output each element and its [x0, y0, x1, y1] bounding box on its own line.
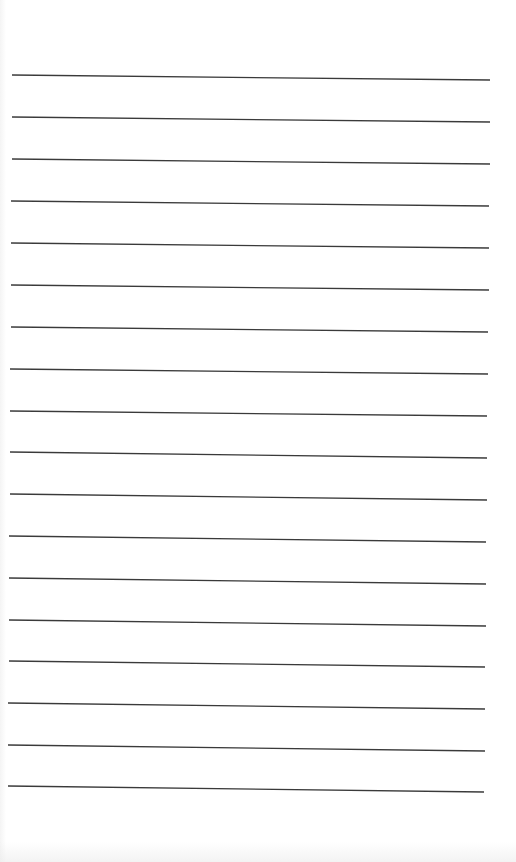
ruled-line-1 [12, 75, 490, 80]
ruled-line-16 [8, 703, 485, 709]
ruled-line-12 [9, 536, 486, 542]
ruled-line-17 [8, 745, 485, 751]
page-bottom-edge-shadow [0, 842, 516, 862]
lined-paper-page [0, 0, 516, 862]
ruled-line-5 [11, 243, 489, 248]
ruled-line-13 [9, 578, 486, 584]
ruled-lines [0, 0, 516, 862]
ruled-line-4 [11, 201, 489, 206]
ruled-line-9 [10, 411, 487, 416]
ruled-line-18 [8, 786, 484, 792]
ruled-line-8 [10, 369, 488, 374]
ruled-line-2 [12, 117, 490, 122]
ruled-line-14 [9, 620, 486, 626]
ruled-line-7 [11, 327, 488, 332]
ruled-line-15 [9, 661, 485, 667]
ruled-line-3 [12, 159, 490, 164]
ruled-line-11 [10, 494, 487, 500]
ruled-line-6 [11, 285, 489, 290]
ruled-line-10 [10, 452, 487, 458]
